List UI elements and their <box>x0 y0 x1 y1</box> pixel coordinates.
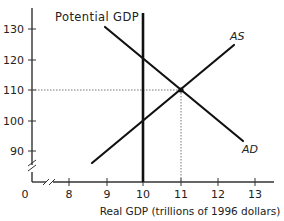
x-tick-label: 8 <box>66 188 73 201</box>
y-tick-label: 100 <box>3 115 24 128</box>
as-label: AS <box>229 30 245 43</box>
y-tick-label: 130 <box>3 23 24 36</box>
as-ad-chart: 130 120 110 100 90 0 8 9 10 11 12 13 Rea… <box>0 0 284 221</box>
x-tick-label: 10 <box>136 188 150 201</box>
as-curve <box>92 45 234 163</box>
x-tick-label: 11 <box>174 188 188 201</box>
y-tick-label: 120 <box>3 54 24 67</box>
origin-label: 0 <box>22 188 29 201</box>
y-tick-label: 110 <box>3 84 24 97</box>
potential-gdp-label: Potential GDP <box>55 10 139 24</box>
x-axis-title: Real GDP (trillions of 1996 dollars) <box>100 205 281 217</box>
x-tick-label: 12 <box>211 188 225 201</box>
y-tick-label: 90 <box>10 145 24 158</box>
x-tick-label: 13 <box>248 188 262 201</box>
ad-label: AD <box>241 143 258 156</box>
ad-curve <box>105 27 243 141</box>
x-tick-label: 9 <box>104 188 111 201</box>
equilibrium-point <box>178 87 183 92</box>
